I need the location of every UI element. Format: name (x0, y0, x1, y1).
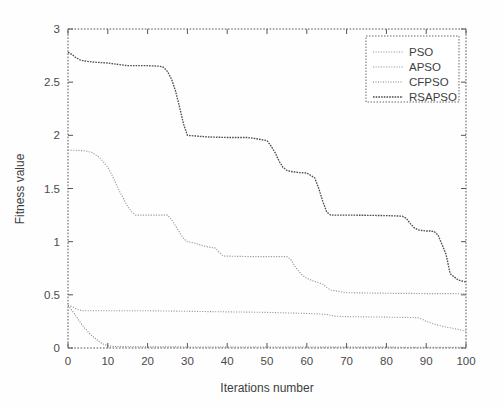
series-line-apso (68, 150, 466, 294)
y-tick-label: 3 (54, 23, 60, 35)
x-tick-label: 90 (420, 355, 433, 367)
y-tick-label: 1.5 (44, 183, 60, 195)
x-tick-label: 100 (456, 355, 475, 367)
chart-figure: 0102030405060708090100 00.511.522.53 Ite… (0, 0, 503, 407)
x-tick-label: 60 (300, 355, 313, 367)
x-tick-label: 0 (65, 355, 71, 367)
y-tick-label: 2.5 (44, 76, 60, 88)
x-tick-label: 30 (181, 355, 194, 367)
x-tick-label: 20 (141, 355, 154, 367)
fitness-convergence-chart: 0102030405060708090100 00.511.522.53 Ite… (0, 0, 503, 407)
x-tick-label: 40 (221, 355, 234, 367)
series-line-cfpso (68, 305, 466, 347)
legend-label-cfpso: CFPSO (409, 76, 449, 88)
legend-label-rsapso: RSAPSO (409, 91, 457, 103)
y-tick-label: 2 (54, 129, 60, 141)
y-tick-label: 0.5 (44, 289, 60, 301)
legend-label-apso: APSO (409, 61, 441, 73)
x-tick-label: 80 (380, 355, 393, 367)
legend-label-pso: PSO (409, 46, 433, 58)
x-tick-label: 50 (261, 355, 274, 367)
x-tick-label: 10 (101, 355, 114, 367)
x-axis-label: Iterations number (220, 381, 313, 395)
y-tick-label: 1 (54, 236, 60, 248)
y-tick-label: 0 (54, 342, 60, 354)
y-axis-label: Fitness value (13, 153, 27, 224)
x-tick-label: 70 (340, 355, 353, 367)
series-line-pso (68, 305, 466, 331)
chart-legend[interactable]: PSOAPSOCFPSORSAPSO (366, 36, 459, 103)
